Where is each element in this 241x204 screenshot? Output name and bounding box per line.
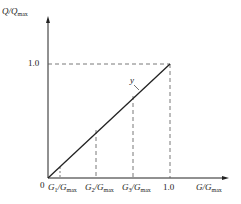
y-tick-1: 1.0 [28,58,39,68]
curve-label-y: y [130,75,134,85]
x-axis-label: G/Gmax [196,182,222,193]
x-tick-1: 1.0 [163,182,174,192]
y-axis-label: Q/Qmax [2,6,28,17]
y-axis-arrow-icon [46,16,50,23]
x-tick-g1: G1/Gmax [48,182,77,193]
origin-label: 0 [40,180,45,190]
x-tick-g3: G3/Gmax [122,182,151,193]
series-y-line [48,64,170,178]
x-axis-arrow-icon [222,176,229,180]
x-tick-g2: G2/Gmax [85,182,114,193]
chart-canvas [0,0,241,204]
label-leader [134,85,139,90]
